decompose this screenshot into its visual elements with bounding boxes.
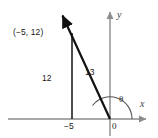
opposite-leg-length-label: 12 xyxy=(42,74,51,83)
trigonometry-figure: (−5, 12) 12 13 −5 0 θ x y xyxy=(0,0,158,138)
x-axis-label: x xyxy=(140,99,144,109)
angle-theta-label: θ xyxy=(119,95,123,104)
origin-label: 0 xyxy=(112,122,117,131)
hypotenuse-length-label: 13 xyxy=(85,68,94,77)
figure-canvas xyxy=(0,0,158,138)
angle-arc xyxy=(93,97,133,119)
y-axis-label: y xyxy=(117,10,121,20)
point-coordinate-label: (−5, 12) xyxy=(13,28,43,37)
x-tick-label-minus-five: −5 xyxy=(64,122,74,131)
